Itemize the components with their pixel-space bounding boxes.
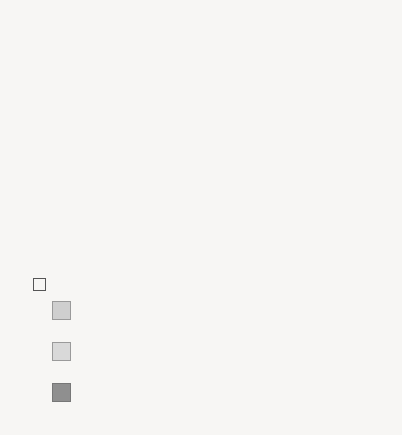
- wilson-swatch: [52, 301, 71, 320]
- us-electoral-map: [0, 0, 402, 290]
- roosevelt-swatch: [52, 342, 71, 361]
- legend-row-roosevelt: [0, 336, 402, 374]
- electoral-vote-key-icon: [33, 278, 46, 291]
- legend-row-taft: [0, 377, 402, 415]
- legend-row-wilson: [0, 295, 402, 333]
- legend-row-debs: [0, 418, 402, 435]
- taft-swatch: [52, 383, 71, 402]
